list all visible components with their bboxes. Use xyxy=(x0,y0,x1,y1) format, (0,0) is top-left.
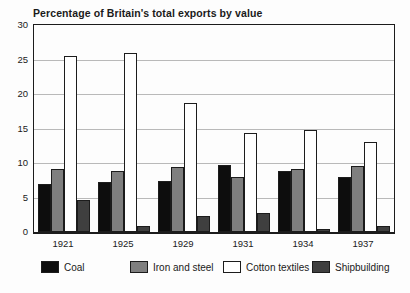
y-tick-label-30: 30 xyxy=(2,19,28,30)
legend-label: Iron and steel xyxy=(153,262,214,273)
bar-shipbuilding-1931 xyxy=(257,213,270,232)
bar-shipbuilding-1921 xyxy=(77,200,90,232)
bar-coal-1934 xyxy=(278,171,291,232)
bar-shipbuilding-1929 xyxy=(197,216,210,232)
y-tick-label-25: 25 xyxy=(2,54,28,65)
bar-iron-and-steel-1929 xyxy=(171,167,184,232)
bar-shipbuilding-1937 xyxy=(377,226,390,232)
bar-cotton-textiles-1931 xyxy=(244,133,257,232)
y-tick-label-0: 0 xyxy=(2,226,28,237)
bar-iron-and-steel-1937 xyxy=(351,166,364,232)
chart-title: Percentage of Britain's total exports by… xyxy=(33,7,262,19)
bar-coal-1931 xyxy=(218,165,231,232)
bar-cotton-textiles-1934 xyxy=(304,130,317,232)
bar-coal-1937 xyxy=(338,177,351,232)
legend-item-shipbuilding: Shipbuilding xyxy=(312,261,390,273)
export-bar-chart-figure: Percentage of Britain's total exports by… xyxy=(0,0,410,293)
bar-iron-and-steel-1921 xyxy=(51,169,64,232)
bar-coal-1925 xyxy=(98,182,111,232)
bar-iron-and-steel-1934 xyxy=(291,169,304,232)
x-tick-label-1925: 1925 xyxy=(93,238,153,249)
bar-cotton-textiles-1925 xyxy=(124,53,137,232)
bar-cotton-textiles-1937 xyxy=(364,142,377,232)
y-tick-label-5: 5 xyxy=(2,192,28,203)
legend-label: Shipbuilding xyxy=(335,262,390,273)
legend-item-iron-and-steel: Iron and steel xyxy=(130,261,214,273)
legend-swatch-coal xyxy=(41,261,59,273)
gridline-10 xyxy=(34,163,394,164)
legend-label: Cotton textiles xyxy=(246,262,309,273)
legend-item-cotton-textiles: Cotton textiles xyxy=(223,261,309,273)
bar-coal-1921 xyxy=(38,184,51,232)
x-tick-label-1934: 1934 xyxy=(273,238,333,249)
gridline-15 xyxy=(34,129,394,130)
y-tick-label-20: 20 xyxy=(2,88,28,99)
bar-iron-and-steel-1925 xyxy=(111,171,124,232)
legend-swatch-iron-and-steel xyxy=(130,261,148,273)
gridline-25 xyxy=(34,60,394,61)
legend-swatch-shipbuilding xyxy=(312,261,330,273)
bar-coal-1929 xyxy=(158,181,171,232)
x-tick-label-1931: 1931 xyxy=(213,238,273,249)
bar-cotton-textiles-1929 xyxy=(184,103,197,232)
x-tick-label-1937: 1937 xyxy=(333,238,393,249)
legend-item-coal: Coal xyxy=(41,261,85,273)
x-tick-label-1921: 1921 xyxy=(33,238,93,249)
bar-iron-and-steel-1931 xyxy=(231,177,244,232)
legend-label: Coal xyxy=(64,262,85,273)
bar-shipbuilding-1934 xyxy=(317,229,330,232)
y-tick-label-15: 15 xyxy=(2,123,28,134)
x-tick-label-1929: 1929 xyxy=(153,238,213,249)
plot-area xyxy=(33,24,395,234)
bar-shipbuilding-1925 xyxy=(137,226,150,232)
bar-cotton-textiles-1921 xyxy=(64,56,77,232)
legend-swatch-cotton-textiles xyxy=(223,261,241,273)
y-tick-label-10: 10 xyxy=(2,157,28,168)
gridline-20 xyxy=(34,94,394,95)
